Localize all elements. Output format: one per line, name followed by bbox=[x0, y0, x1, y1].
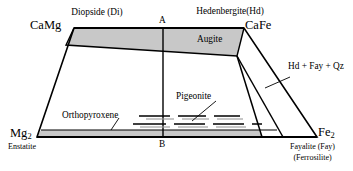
label-fayalite: Fayalite (Fay) bbox=[272, 143, 353, 151]
label-cafe: CaFe bbox=[245, 19, 271, 32]
label-ferrosilite: (Ferrosilite) bbox=[272, 154, 353, 162]
label-fe2-subscript: 2 bbox=[331, 130, 335, 140]
label-assemblage-hd-fay-qz: Hd + Fay + Qz bbox=[288, 62, 344, 72]
label-orthopyroxene: Orthopyroxene bbox=[62, 111, 118, 121]
orthopyroxene-field-shape bbox=[37, 130, 283, 137]
label-camg: CaMg bbox=[30, 19, 61, 32]
label-fe2-formula: Fe bbox=[318, 125, 331, 139]
label-marker-a: A bbox=[159, 16, 166, 26]
label-hedenbergite: Hedenbergite(Hd) bbox=[175, 7, 285, 17]
label-mg2: Mg2 bbox=[10, 127, 32, 141]
pyroxene-quadrilateral-figure: Diopside (Di) CaMg Hedenbergite(Hd) CaFe… bbox=[0, 0, 353, 171]
label-mg2-formula: Mg bbox=[10, 126, 27, 140]
pigeonite-leader-line bbox=[192, 101, 216, 121]
label-enstatite: Enstatite bbox=[8, 143, 36, 151]
label-fe2: Fe2 bbox=[318, 126, 335, 140]
label-augite: Augite bbox=[197, 35, 222, 45]
label-pigeonite: Pigeonite bbox=[176, 92, 211, 102]
label-marker-b: B bbox=[159, 140, 165, 150]
label-diopside: Diopside (Di) bbox=[52, 8, 142, 18]
label-mg2-subscript: 2 bbox=[27, 131, 31, 141]
